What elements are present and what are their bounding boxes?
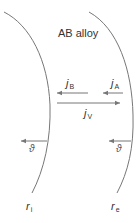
- flux-a-subscript: A: [114, 83, 119, 90]
- alloy-title: AB alloy: [58, 28, 98, 39]
- inner-velocity-label: ϑ: [29, 144, 35, 154]
- outer-velocity-label: ϑ: [116, 144, 122, 154]
- flux-v-subscript: V: [87, 113, 92, 120]
- outer-radius-label: re: [111, 201, 120, 213]
- outer-radius-symbol: r: [111, 200, 115, 212]
- flux-b-label: jB: [66, 78, 74, 90]
- outer-radius-subscript: e: [116, 206, 120, 213]
- inner-radius-symbol: r: [26, 200, 30, 212]
- flux-v-label: jV: [84, 108, 92, 120]
- inner-radius-label: ri: [26, 201, 32, 213]
- flux-a-label: jA: [111, 78, 119, 90]
- flux-b-subscript: B: [69, 83, 74, 90]
- inner-radius-subscript: i: [31, 206, 33, 213]
- inner-interface-curve: [4, 12, 50, 193]
